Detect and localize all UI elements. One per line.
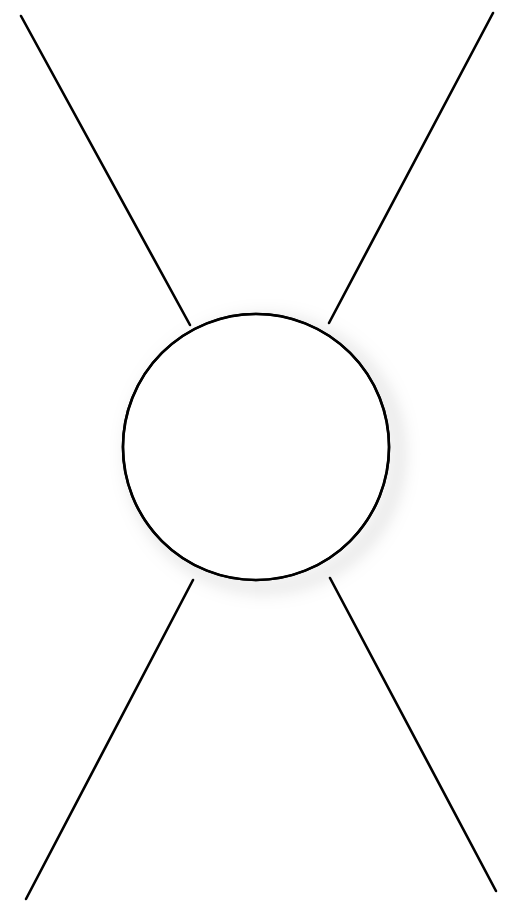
- line-drawing-svg: [0, 0, 519, 916]
- loop-interior-fill: [124, 315, 387, 578]
- figure-canvas: Line drawing: a circle with four straigh…: [0, 0, 519, 916]
